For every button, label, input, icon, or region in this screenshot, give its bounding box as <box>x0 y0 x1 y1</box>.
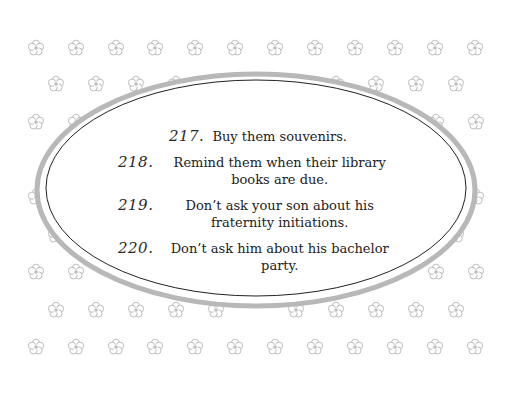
book-page: 217. Buy them souvenirs. 218. Remind the… <box>0 0 512 395</box>
tip-number: 220. <box>118 240 153 257</box>
tip-item-220: 220. Don’t ask him about his bachelor pa… <box>118 240 398 274</box>
tip-item-217: 217. Buy them souvenirs. <box>118 128 398 145</box>
tips-list: 217. Buy them souvenirs. 218. Remind the… <box>118 128 398 283</box>
tip-text: Buy them souvenirs. <box>212 128 347 145</box>
tip-text: Remind them when their library books are… <box>161 154 398 188</box>
tip-text: Don’t ask him about his bachelor party. <box>161 240 398 274</box>
tip-number: 217. <box>169 128 204 145</box>
tip-item-219: 219. Don’t ask your son about his frater… <box>118 197 398 231</box>
tip-item-218: 218. Remind them when their library book… <box>118 154 398 188</box>
tip-text: Don’t ask your son about his fraternity … <box>161 197 398 231</box>
tip-number: 219. <box>118 197 153 214</box>
tip-number: 218. <box>118 154 153 171</box>
